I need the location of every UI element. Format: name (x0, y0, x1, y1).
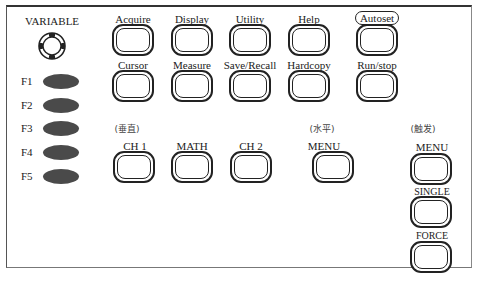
help-button[interactable] (288, 24, 330, 56)
f5-button[interactable] (43, 169, 79, 184)
autoset-label: Autoset (355, 11, 399, 25)
measure-button[interactable] (171, 70, 213, 102)
ch2-button[interactable] (230, 151, 272, 183)
f5-label: F5 (21, 170, 33, 182)
f2-button[interactable] (43, 98, 79, 113)
display-button[interactable] (171, 24, 213, 56)
hardcopy-button[interactable] (288, 70, 330, 102)
ch1-button[interactable] (113, 151, 155, 183)
trigger-section-title: (触发) (398, 123, 448, 135)
autoset-label-wrap: Autoset (347, 12, 407, 24)
trigger-menu-button[interactable] (410, 153, 452, 185)
autoset-button[interactable] (356, 24, 398, 56)
single-button[interactable] (410, 196, 452, 228)
save-recall-button[interactable] (229, 70, 271, 102)
f2-label: F2 (21, 99, 33, 111)
rotary-knob-icon[interactable] (37, 31, 67, 61)
f1-button[interactable] (43, 74, 79, 89)
horizontal-menu-button[interactable] (312, 151, 354, 183)
f4-label: F4 (21, 146, 33, 158)
f1-label: F1 (21, 75, 33, 87)
math-button[interactable] (171, 151, 213, 183)
utility-button[interactable] (229, 24, 271, 56)
acquire-button[interactable] (112, 24, 154, 56)
force-button[interactable] (410, 241, 452, 273)
f3-button[interactable] (43, 121, 79, 136)
run-stop-button[interactable] (356, 70, 398, 102)
f4-button[interactable] (43, 145, 79, 160)
f3-label: F3 (21, 122, 33, 134)
trigger-menu-label: MENU (407, 141, 457, 153)
vertical-section-title: (垂直) (102, 123, 152, 135)
horizontal-section-title: (水平) (297, 123, 347, 135)
variable-label: VARIABLE (12, 15, 92, 27)
cursor-button[interactable] (112, 70, 154, 102)
